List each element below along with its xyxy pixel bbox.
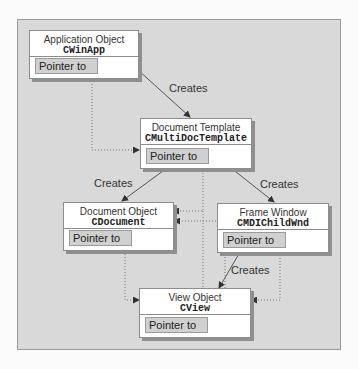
node-application-object: Application Object CWinApp Pointer to <box>29 30 139 79</box>
node-header: Document Template CMultiDocTemplate <box>141 119 251 145</box>
pointer-cell: Pointer to <box>69 230 132 246</box>
node-header: View Object CView <box>140 289 250 315</box>
node-frame-window: Frame Window CMDIChildWnd Pointer to <box>217 203 329 253</box>
node-class: CView <box>140 303 250 314</box>
edge-label-frame-creates-view: Creates <box>231 264 270 276</box>
edge-label-template-creates-frame: Creates <box>260 178 299 190</box>
node-header: Application Object CWinApp <box>30 31 138 57</box>
node-title: Document Object <box>64 206 173 217</box>
edge-label-app-creates-template: Creates <box>169 82 208 94</box>
node-document-template: Document Template CMultiDocTemplate Poin… <box>140 118 252 169</box>
node-header: Frame Window CMDIChildWnd <box>218 204 328 230</box>
pointer-cell: Pointer to <box>35 58 98 74</box>
node-header: Document Object CDocument <box>64 203 173 229</box>
node-title: View Object <box>140 292 250 303</box>
pointer-cell: Pointer to <box>146 148 209 164</box>
node-class: CWinApp <box>30 45 138 56</box>
node-view-object: View Object CView Pointer to <box>139 288 251 338</box>
node-class: CDocument <box>64 217 173 228</box>
pointer-cell: Pointer to <box>223 232 286 248</box>
pointer-cell: Pointer to <box>145 317 208 333</box>
node-title: Application Object <box>30 34 138 45</box>
node-title: Document Template <box>141 122 251 133</box>
node-class: CMDIChildWnd <box>218 218 328 229</box>
node-class: CMultiDocTemplate <box>141 133 251 144</box>
edge-label-template-creates-document: Creates <box>94 177 133 189</box>
node-title: Frame Window <box>218 207 328 218</box>
node-document-object: Document Object CDocument Pointer to <box>63 202 174 251</box>
